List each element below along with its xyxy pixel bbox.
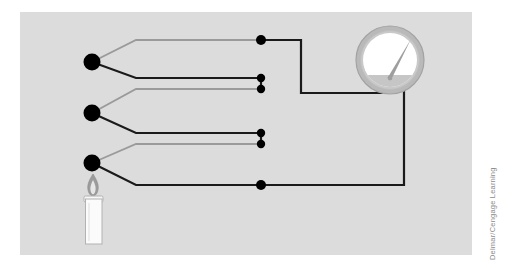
copyright-credit: Delmar/Cengage Learning (486, 246, 516, 260)
terminal-pair-2-upper (257, 129, 265, 137)
candle-body (86, 199, 103, 244)
temperature-meter[interactable] (356, 26, 424, 94)
terminal-bottom (256, 180, 266, 190)
meter-needle-pivot-icon (388, 76, 393, 81)
terminal-pair-2-lower (257, 140, 265, 148)
wire-dark-1 (92, 62, 261, 78)
wire-light-2 (92, 89, 261, 113)
thermocouple-circuit-diagram (0, 0, 516, 268)
figure-container: Delmar/Cengage Learning (0, 0, 516, 268)
terminal-top (256, 35, 266, 45)
thermocouple-junction-bottom (84, 155, 101, 172)
wire-light-1 (92, 40, 261, 62)
junction-dots-group (84, 35, 267, 190)
wire-dark-2 (92, 113, 261, 133)
thermocouple-junction-top (84, 54, 101, 71)
thermocouple-junction-middle (84, 105, 101, 122)
terminal-pair-1-lower (257, 85, 265, 93)
candle (84, 174, 103, 244)
terminal-pair-1-upper (257, 74, 265, 82)
wire-light-3 (92, 144, 261, 163)
wire-dark-3 (92, 163, 261, 185)
